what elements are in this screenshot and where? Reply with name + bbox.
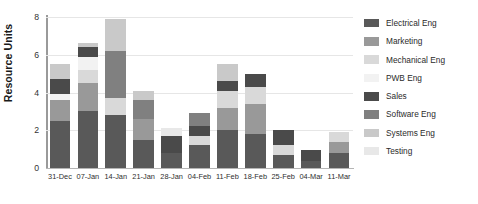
bar-segment[interactable] xyxy=(301,161,322,168)
legend-item[interactable]: PWB Eng xyxy=(364,69,476,87)
bar-segment[interactable] xyxy=(301,150,322,161)
bar-segment[interactable] xyxy=(161,136,182,153)
legend-item[interactable]: Mechanical Eng xyxy=(364,51,476,69)
bar-segment[interactable] xyxy=(50,121,71,168)
bar-segment[interactable] xyxy=(78,111,99,168)
x-tick-label: 11-Mar xyxy=(325,173,353,180)
legend-label: Electrical Eng xyxy=(386,19,437,27)
bar-stack[interactable] xyxy=(78,43,99,168)
legend-swatch-icon xyxy=(364,37,379,46)
x-tick-label: 07-Jan xyxy=(74,173,102,180)
bar-stack[interactable] xyxy=(133,91,154,168)
bar-segment[interactable] xyxy=(133,91,154,100)
bar-segment[interactable] xyxy=(133,119,154,140)
bar-stack[interactable] xyxy=(301,150,322,168)
legend-item[interactable]: Systems Eng xyxy=(364,124,476,142)
bar-segment[interactable] xyxy=(133,100,154,119)
x-tick-label: 11-Feb xyxy=(213,173,241,180)
bar-segment[interactable] xyxy=(133,140,154,168)
legend-swatch-icon xyxy=(364,92,379,101)
chart-legend: Electrical EngMarketingMechanical EngPWB… xyxy=(364,14,476,160)
chart-root: Resource Units 02468 Electrical EngMarke… xyxy=(0,0,478,204)
y-tick-label: 4 xyxy=(22,89,39,98)
x-tick-label: 14-Jan xyxy=(102,173,130,180)
bar-segment[interactable] xyxy=(105,19,126,51)
bar-segment[interactable] xyxy=(50,64,71,79)
bar-segment[interactable] xyxy=(105,51,126,98)
bar-segment[interactable] xyxy=(78,83,99,111)
plot-area xyxy=(46,17,353,168)
bar-stack[interactable] xyxy=(105,19,126,168)
legend-swatch-icon xyxy=(364,110,379,119)
legend-item[interactable]: Software Eng xyxy=(364,105,476,123)
legend-label: Systems Eng xyxy=(386,129,435,137)
bar-segment[interactable] xyxy=(50,100,71,121)
bar-segment[interactable] xyxy=(245,104,266,134)
bar-segment[interactable] xyxy=(217,64,238,81)
gridline xyxy=(46,17,353,18)
legend-item[interactable]: Marketing xyxy=(364,32,476,50)
bar-segment[interactable] xyxy=(189,113,210,126)
legend-swatch-icon xyxy=(364,129,379,138)
bar-stack[interactable] xyxy=(161,128,182,168)
legend-item[interactable]: Sales xyxy=(364,87,476,105)
y-tick-label: 8 xyxy=(22,13,39,22)
bar-segment[interactable] xyxy=(217,81,238,90)
bar-segment[interactable] xyxy=(273,145,294,154)
bar-segment[interactable] xyxy=(245,87,266,104)
bar-stack[interactable] xyxy=(245,74,266,168)
legend-item[interactable]: Testing xyxy=(364,142,476,160)
bar-segment[interactable] xyxy=(329,153,350,168)
legend-swatch-icon xyxy=(364,55,379,64)
y-tick-label: 6 xyxy=(22,51,39,60)
bar-segment[interactable] xyxy=(105,115,126,168)
legend-label: Sales xyxy=(386,92,407,100)
x-tick-label: 28-Jan xyxy=(158,173,186,180)
bar-segment[interactable] xyxy=(329,132,350,141)
bar-segment[interactable] xyxy=(189,136,210,145)
bar-segment[interactable] xyxy=(217,91,238,108)
bar-segment[interactable] xyxy=(78,57,99,70)
x-tick-label: 31-Dec xyxy=(46,173,74,180)
bar-segment[interactable] xyxy=(50,79,71,94)
bar-stack[interactable] xyxy=(273,130,294,168)
bar-segment[interactable] xyxy=(105,98,126,115)
x-tick-label: 18-Feb xyxy=(241,173,269,180)
x-tick-label: 04-Feb xyxy=(186,173,214,180)
bar-stack[interactable] xyxy=(217,64,238,168)
bar-segment[interactable] xyxy=(245,134,266,168)
bar-segment[interactable] xyxy=(189,126,210,135)
legend-swatch-icon xyxy=(364,74,379,83)
legend-label: Testing xyxy=(386,147,412,155)
legend-label: Software Eng xyxy=(386,110,436,118)
bar-segment[interactable] xyxy=(329,142,350,153)
bar-stack[interactable] xyxy=(189,113,210,168)
bar-segment[interactable] xyxy=(217,130,238,168)
legend-label: Mechanical Eng xyxy=(386,56,445,64)
x-axis-line xyxy=(46,168,354,169)
x-tick-label: 21-Jan xyxy=(130,173,158,180)
bar-segment[interactable] xyxy=(78,47,99,56)
legend-label: Marketing xyxy=(386,37,422,45)
bar-segment[interactable] xyxy=(189,145,210,168)
x-tick-label: 25-Feb xyxy=(269,173,297,180)
bar-segment[interactable] xyxy=(245,74,266,87)
legend-swatch-icon xyxy=(364,19,379,28)
legend-swatch-icon xyxy=(364,147,379,156)
legend-label: PWB Eng xyxy=(386,74,422,82)
bar-segment[interactable] xyxy=(78,70,99,83)
bar-segment[interactable] xyxy=(161,128,182,136)
bar-segment[interactable] xyxy=(273,130,294,145)
bar-segment[interactable] xyxy=(273,155,294,168)
bar-segment[interactable] xyxy=(217,108,238,131)
bar-segment[interactable] xyxy=(161,153,182,168)
y-tick-label: 0 xyxy=(22,164,39,173)
x-tick-label: 04-Mar xyxy=(297,173,325,180)
legend-item[interactable]: Electrical Eng xyxy=(364,14,476,32)
y-tick-label: 2 xyxy=(22,126,39,135)
bar-stack[interactable] xyxy=(50,64,71,168)
bar-stack[interactable] xyxy=(329,132,350,168)
